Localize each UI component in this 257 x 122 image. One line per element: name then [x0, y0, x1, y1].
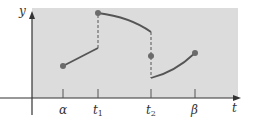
- t-axis-label: t: [232, 102, 237, 114]
- dot-at-alpha: [60, 63, 66, 69]
- tick-label-beta: β: [191, 104, 198, 116]
- dot-isolated-t2: [148, 53, 154, 59]
- dot-at-beta: [192, 50, 198, 56]
- piecewise-function-diagram: [0, 0, 257, 122]
- tick-label-t1: t1: [93, 104, 103, 118]
- tick-label-alpha: α: [59, 104, 67, 116]
- tick-label-t1-subscript: 1: [98, 109, 103, 118]
- dot-at-t1-top: [95, 10, 101, 16]
- tick-label-t2: t2: [146, 104, 156, 118]
- shaded-region: [32, 8, 238, 98]
- y-axis-label: y: [19, 5, 26, 17]
- tick-label-t2-subscript: 2: [151, 109, 156, 118]
- tick-label-beta-text: β: [191, 103, 198, 117]
- tick-label-alpha-text: α: [59, 103, 67, 117]
